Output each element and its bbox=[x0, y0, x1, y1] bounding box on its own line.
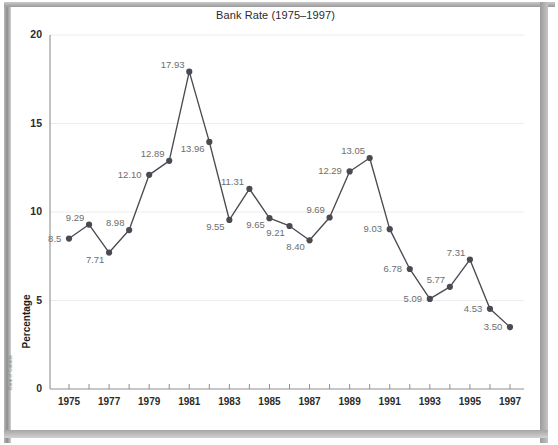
x-tick-label: 1985 bbox=[249, 396, 289, 407]
data-point bbox=[306, 237, 312, 243]
data-point bbox=[286, 223, 292, 229]
data-point-label: 8.40 bbox=[286, 241, 305, 252]
x-tick-label: 1975 bbox=[49, 396, 89, 407]
x-axis-ticks bbox=[69, 384, 510, 389]
x-tick-label: 1991 bbox=[370, 396, 410, 407]
data-point-label: 5.09 bbox=[404, 293, 423, 304]
data-point-label: 9.55 bbox=[206, 221, 225, 232]
data-point-label: 11.31 bbox=[221, 176, 244, 187]
data-point-label: 9.65 bbox=[246, 219, 265, 230]
data-point-label: 9.21 bbox=[266, 227, 285, 238]
source-credit: Bank of Canada bbox=[8, 343, 13, 403]
data-point bbox=[246, 186, 252, 192]
data-line bbox=[69, 72, 510, 327]
data-point bbox=[226, 217, 232, 223]
data-point-label: 4.53 bbox=[464, 303, 483, 314]
data-point bbox=[427, 296, 433, 302]
data-point bbox=[467, 257, 473, 263]
data-point bbox=[66, 235, 72, 241]
y-tick-label: 0 bbox=[20, 382, 42, 394]
y-tick-label: 20 bbox=[20, 28, 42, 40]
data-point bbox=[126, 227, 132, 233]
data-point bbox=[407, 266, 413, 272]
data-point-label: 8.5 bbox=[48, 233, 61, 244]
chart-figure: Bank Rate (1975–1997) 8.59.297.718.9812.… bbox=[0, 0, 558, 445]
x-tick-label: 1983 bbox=[209, 396, 249, 407]
data-point-label: 9.29 bbox=[66, 212, 85, 223]
x-tick-label: 1981 bbox=[169, 396, 209, 407]
data-point-label: 8.98 bbox=[106, 217, 125, 228]
x-tick-label: 1989 bbox=[330, 396, 370, 407]
x-tick-label: 1993 bbox=[410, 396, 450, 407]
data-point bbox=[326, 214, 332, 220]
data-point bbox=[367, 155, 373, 161]
data-point bbox=[447, 284, 453, 290]
data-point-label: 9.69 bbox=[306, 204, 325, 215]
data-point bbox=[186, 69, 192, 75]
data-point bbox=[487, 306, 493, 312]
data-markers bbox=[66, 69, 513, 331]
data-point-label: 13.05 bbox=[341, 145, 365, 156]
data-point-label: 17.93 bbox=[161, 59, 185, 70]
data-point-label: 7.71 bbox=[86, 254, 105, 265]
x-tick-label: 1987 bbox=[290, 396, 330, 407]
data-point bbox=[387, 226, 393, 232]
x-tick-label: 1979 bbox=[129, 396, 169, 407]
data-point-label: 7.31 bbox=[447, 247, 466, 258]
data-point bbox=[86, 221, 92, 227]
data-point-label: 12.29 bbox=[318, 165, 342, 176]
data-point bbox=[266, 215, 272, 221]
data-point-label: 12.10 bbox=[118, 169, 142, 180]
y-tick-label: 15 bbox=[20, 117, 42, 129]
data-point-label: 12.89 bbox=[141, 148, 165, 159]
y-axis-title: Percentage bbox=[21, 290, 32, 354]
data-point bbox=[347, 168, 353, 174]
data-point bbox=[206, 139, 212, 145]
y-tick-label: 10 bbox=[20, 205, 42, 217]
data-point bbox=[146, 172, 152, 178]
x-tick-label: 1995 bbox=[450, 396, 490, 407]
data-point bbox=[166, 158, 172, 164]
data-point-label: 6.78 bbox=[384, 263, 403, 274]
data-point bbox=[507, 324, 513, 330]
data-point-label: 3.50 bbox=[484, 321, 503, 332]
x-tick-label: 1997 bbox=[490, 396, 530, 407]
x-tick-label: 1977 bbox=[89, 396, 129, 407]
data-point-label: 9.03 bbox=[364, 223, 383, 234]
data-point bbox=[106, 249, 112, 255]
gridlines bbox=[50, 35, 524, 301]
data-point-label: 13.96 bbox=[181, 143, 205, 154]
data-point-label: 5.77 bbox=[427, 274, 446, 285]
